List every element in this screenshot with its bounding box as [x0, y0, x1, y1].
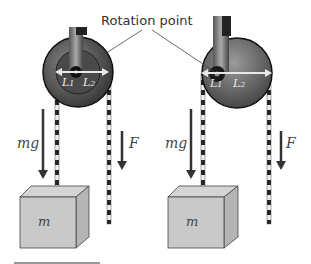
right-force-label: F: [286, 135, 296, 151]
right-mass-label: m: [186, 214, 198, 229]
left-lever-l2: L2: [83, 76, 95, 89]
rotation-point-label: Rotation point: [101, 13, 193, 28]
right-load-rope: [201, 74, 205, 190]
left-effort-rope: [107, 72, 111, 224]
left-lever-l1: L1: [62, 76, 74, 89]
left-box-side: [76, 186, 89, 248]
left-mass-label: m: [38, 214, 50, 229]
right-lever-l2: L2: [233, 77, 245, 90]
leader-line-right: [152, 30, 215, 72]
right-box-side: [224, 186, 238, 248]
right-effort-rope: [267, 74, 271, 224]
left-weight-label: mg: [17, 135, 39, 151]
right-weight-label: mg: [165, 135, 187, 151]
left-force-label: F: [129, 135, 139, 151]
right-lever-l1: L1: [210, 77, 222, 90]
pulley-diagram: Rotation point L1 L2 mg F m L1 L2 mg F m: [0, 0, 311, 264]
